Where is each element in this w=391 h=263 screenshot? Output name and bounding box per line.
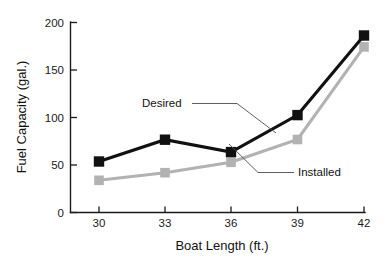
data-point-installed-39 xyxy=(293,135,303,145)
data-point-desired-42 xyxy=(359,30,369,40)
y-tick-label-0: 0 xyxy=(58,207,64,219)
y-tick-label-50: 50 xyxy=(51,159,64,171)
data-point-desired-33 xyxy=(160,135,170,145)
annotation-label-installed: Installed xyxy=(298,166,341,178)
annotation-label-desired: Desired xyxy=(142,97,182,109)
y-tick-label-200: 200 xyxy=(45,17,64,29)
data-point-installed-42 xyxy=(359,42,369,52)
y-axis-title: Fuel Capacity (gal.) xyxy=(14,61,29,174)
x-tick-label-36: 36 xyxy=(225,217,238,229)
chart-page: 0 50 100 150 200 30 33 36 39 42 Boat Len… xyxy=(0,0,391,263)
data-point-installed-33 xyxy=(160,168,170,178)
x-axis-title: Boat Length (ft.) xyxy=(175,238,268,253)
data-point-installed-36 xyxy=(226,158,236,168)
y-tick-label-100: 100 xyxy=(45,112,64,124)
y-tick-label-150: 150 xyxy=(45,64,64,76)
fuel-capacity-line-chart: 0 50 100 150 200 30 33 36 39 42 Boat Len… xyxy=(0,0,391,263)
data-point-installed-30 xyxy=(94,176,104,186)
data-point-desired-39 xyxy=(292,110,302,120)
x-tick-label-30: 30 xyxy=(93,217,106,229)
chart-background xyxy=(0,0,391,263)
x-tick-label-33: 33 xyxy=(159,217,172,229)
x-tick-label-39: 39 xyxy=(291,217,304,229)
x-tick-label-42: 42 xyxy=(358,217,371,229)
data-point-desired-30 xyxy=(94,156,104,166)
data-point-desired-36 xyxy=(226,147,236,157)
